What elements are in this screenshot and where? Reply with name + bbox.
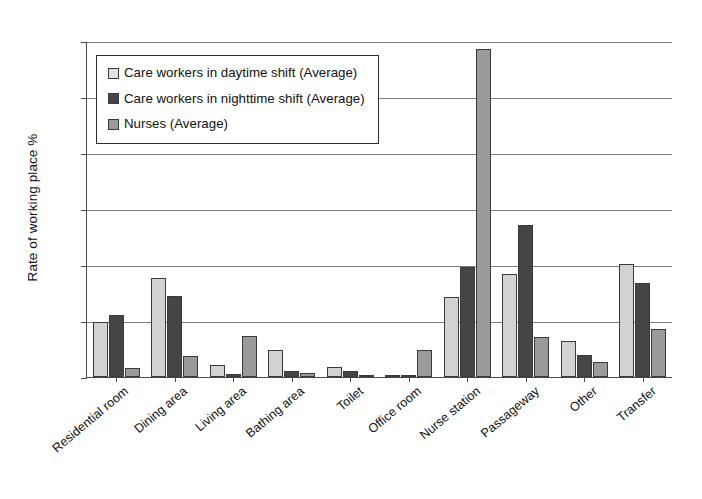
- bar: [210, 365, 225, 377]
- bar: [577, 355, 592, 377]
- legend-label: Nurses (Average): [124, 114, 228, 135]
- legend-swatch-icon: [108, 68, 119, 79]
- bar: [534, 337, 549, 377]
- bar: [561, 341, 576, 377]
- bar: [183, 356, 198, 377]
- bar: [109, 315, 124, 377]
- bar: [460, 267, 475, 377]
- bar: [444, 297, 459, 377]
- bar: [476, 49, 491, 377]
- bar: [151, 278, 166, 377]
- bar: [417, 350, 432, 377]
- y-axis-title: Rate of working place %: [25, 98, 40, 318]
- bar-group: [438, 42, 497, 377]
- bar: [359, 375, 374, 377]
- x-axis-tick-label: Dining area: [132, 384, 190, 436]
- x-axis-tick-label: Transfer: [614, 384, 659, 425]
- legend-swatch-icon: [108, 93, 119, 104]
- legend-item: Care workers in nighttime shift (Average…: [108, 89, 365, 110]
- bar: [242, 336, 257, 377]
- bar: [593, 362, 608, 377]
- x-axis-tick-label: Residential room: [50, 384, 131, 455]
- bar-group: [555, 42, 614, 377]
- bar: [93, 322, 108, 377]
- legend-item: Nurses (Average): [108, 114, 365, 135]
- bar: [300, 373, 315, 377]
- x-axis-tick-label: Living area: [192, 384, 248, 434]
- legend-label: Care workers in daytime shift (Average): [124, 63, 357, 84]
- legend-label: Care workers in nighttime shift (Average…: [124, 89, 365, 110]
- x-axis-tick-label: Toilet: [334, 384, 366, 414]
- chart-legend: Care workers in daytime shift (Average) …: [96, 55, 379, 144]
- bar: [635, 283, 650, 377]
- bar-group: [614, 42, 673, 377]
- x-axis-tick-labels: Residential roomDining areaLiving areaBa…: [86, 378, 672, 499]
- legend-swatch-icon: [108, 119, 119, 130]
- x-axis-tick-label: Office room: [366, 384, 425, 436]
- legend-item: Care workers in daytime shift (Average): [108, 63, 365, 84]
- bar: [518, 225, 533, 377]
- bar: [619, 264, 634, 377]
- bar: [651, 329, 666, 377]
- x-axis-tick-label: Bathing area: [243, 384, 307, 441]
- bar-chart: Rate of working place % 0102030405060 Ca…: [0, 0, 702, 499]
- bar: [125, 368, 140, 377]
- x-axis-tick-label: Nurse station: [417, 384, 483, 442]
- bar-group: [380, 42, 439, 377]
- bar: [268, 350, 283, 377]
- bar-group: [497, 42, 556, 377]
- bar: [385, 375, 400, 377]
- x-axis-tick-label: Passageway: [478, 384, 542, 441]
- bar: [167, 296, 182, 377]
- bar: [327, 367, 342, 377]
- x-axis-tick-label: Other: [567, 384, 600, 415]
- bar: [502, 274, 517, 377]
